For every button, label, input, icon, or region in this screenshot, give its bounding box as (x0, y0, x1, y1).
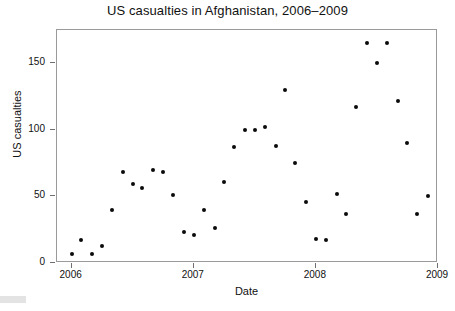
data-point (354, 105, 358, 109)
plot-area (56, 29, 437, 262)
data-point (192, 233, 196, 237)
data-point (253, 128, 257, 132)
data-point (79, 238, 83, 242)
x-tick-mark (315, 263, 316, 268)
data-point (70, 252, 74, 256)
data-point (365, 41, 369, 45)
y-tick-mark (50, 195, 55, 196)
data-points-layer (57, 30, 436, 261)
y-tick-label: 0 (5, 257, 45, 267)
data-point (202, 208, 206, 212)
y-tick-mark (50, 262, 55, 263)
data-point (396, 99, 400, 103)
data-point (415, 212, 419, 216)
data-point (274, 144, 278, 148)
y-tick-mark (50, 62, 55, 63)
data-point (182, 230, 186, 234)
data-point (314, 237, 318, 241)
x-tick-label: 2008 (285, 269, 345, 280)
y-tick-mark (50, 129, 55, 130)
data-point (171, 193, 175, 197)
data-point (100, 244, 104, 248)
data-point (222, 180, 226, 184)
data-point (344, 212, 348, 216)
data-point (375, 61, 379, 65)
data-point (385, 41, 389, 45)
data-point (121, 170, 125, 174)
x-tick-label: 2006 (41, 269, 101, 280)
x-axis-title: Date (56, 285, 437, 297)
data-point (426, 194, 430, 198)
data-point (232, 145, 236, 149)
data-point (405, 141, 409, 145)
data-point (161, 170, 165, 174)
data-point (283, 88, 287, 92)
data-point (140, 186, 144, 190)
y-axis-title: US casualties (11, 29, 23, 219)
x-tick-mark (193, 263, 194, 268)
data-point (213, 226, 217, 230)
chart-title: US casualties in Afghanistan, 2006–2009 (0, 3, 455, 18)
scatter-chart: US casualties in Afghanistan, 2006–2009 … (0, 0, 455, 311)
data-point (110, 208, 114, 212)
x-tick-mark (71, 263, 72, 268)
page-edge-artifact (0, 296, 26, 303)
data-point (293, 161, 297, 165)
data-point (243, 128, 247, 132)
x-tick-label: 2009 (407, 269, 455, 280)
data-point (304, 200, 308, 204)
data-point (131, 182, 135, 186)
x-tick-mark (437, 263, 438, 268)
x-tick-label: 2007 (163, 269, 223, 280)
data-point (335, 192, 339, 196)
data-point (324, 238, 328, 242)
data-point (263, 125, 267, 129)
data-point (90, 252, 94, 256)
data-point (151, 168, 155, 172)
